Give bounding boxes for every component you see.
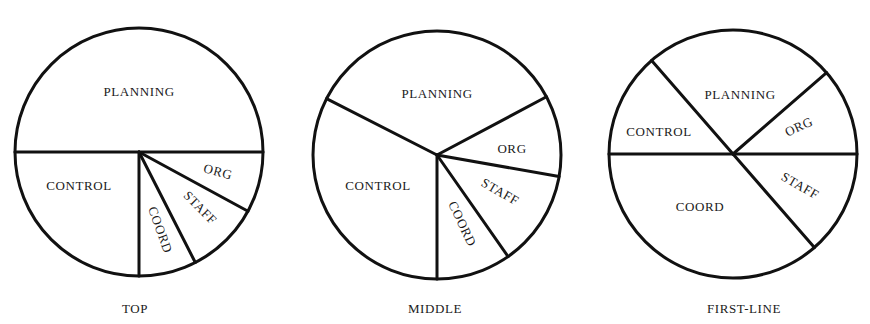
- slice-label-staff: STAFF: [479, 175, 522, 208]
- slice-label-org: ORG: [497, 141, 526, 156]
- slice-label-control: CONTROL: [626, 124, 692, 139]
- pie-charts-canvas: PLANNING ORG STAFF COORD CONTROL TOP PLA…: [0, 0, 870, 324]
- pie-first-line: PLANNING ORG STAFF COORD CONTROL FIRST-L…: [609, 30, 857, 316]
- slice-boundary-line: [652, 60, 733, 154]
- pie-caption-top: TOP: [122, 301, 148, 316]
- slice-label-coord: COORD: [676, 199, 725, 214]
- slice-label-org: ORG: [202, 160, 234, 182]
- pie-middle: PLANNING ORG STAFF COORD CONTROL MIDDLE: [313, 31, 561, 316]
- pie-first-line-labels: PLANNING ORG STAFF COORD CONTROL: [626, 87, 822, 214]
- slice-boundary-line: [437, 97, 547, 155]
- figure-three-pie-charts: PLANNING ORG STAFF COORD CONTROL TOP PLA…: [0, 0, 870, 324]
- slice-label-control: CONTROL: [345, 178, 411, 193]
- slice-label-org: ORG: [782, 114, 815, 140]
- pie-caption-first-line: FIRST-LINE: [707, 301, 781, 316]
- slice-label-planning: PLANNING: [704, 87, 775, 102]
- slice-label-planning: PLANNING: [401, 86, 472, 101]
- slice-label-control: CONTROL: [46, 178, 112, 193]
- pie-top: PLANNING ORG STAFF COORD CONTROL TOP: [15, 28, 263, 316]
- slice-boundary-line: [733, 154, 814, 248]
- slice-boundary-line: [327, 99, 438, 155]
- slice-label-staff: STAFF: [779, 169, 822, 202]
- slice-boundary-line: [437, 155, 559, 177]
- slice-boundary-line: [733, 73, 827, 154]
- pie-caption-middle: MIDDLE: [408, 301, 462, 316]
- slice-label-planning: PLANNING: [103, 84, 174, 99]
